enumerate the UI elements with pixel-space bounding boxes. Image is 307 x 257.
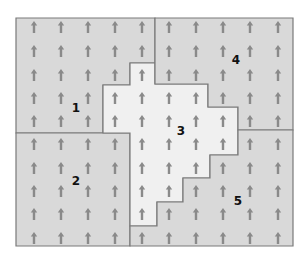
region-diagram: 12345 [0,0,307,257]
region-label-5: 5 [234,194,242,208]
region-label-2: 2 [72,174,80,188]
region-label-3: 3 [177,124,185,138]
region-label-1: 1 [72,101,80,115]
region-label-4: 4 [232,53,240,67]
